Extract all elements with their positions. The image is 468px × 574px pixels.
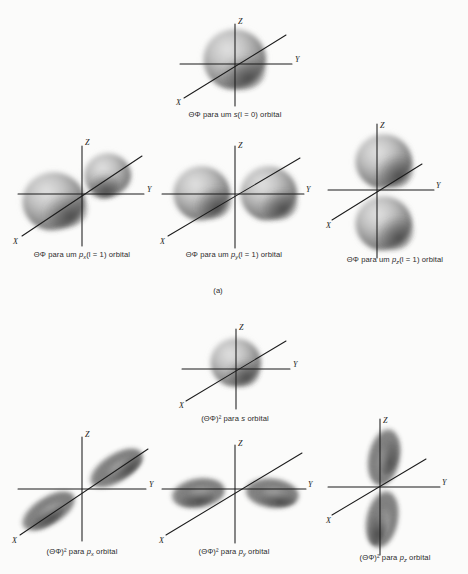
s-orbital-diagram: Z Y X: [160, 14, 310, 114]
cell-a-px-orbital: Z Y X ΘΦ para um px(l = 1) orbital: [4, 128, 160, 268]
caption-suffix: orbital: [245, 414, 269, 423]
pz-orbital-diagram: Z Y X: [322, 122, 468, 260]
axis-label-x: X: [158, 536, 165, 545]
axis-label-z: Z: [85, 430, 90, 439]
cell-b-px-orbital: Z Y X (ΘΦ)² para px orbital: [4, 425, 160, 565]
cell-a-py-orbital: Z Y X ΘΦ para um py(l = 1) orbital: [154, 140, 314, 268]
axis-label-x: X: [11, 536, 18, 545]
caption-b-py: (ΘΦ)² para py orbital: [154, 547, 314, 557]
py-squared-diagram: Z Y X: [154, 437, 314, 549]
caption-a-px: ΘΦ para um px(l = 1) orbital: [4, 250, 160, 260]
s-squared-diagram: Z Y X: [160, 323, 310, 415]
caption-suffix: orbital: [246, 547, 270, 556]
px-orbital-diagram: Z Y X: [4, 128, 160, 252]
caption-prefix: ΘΦ para um: [34, 250, 79, 259]
axis-label-y: Y: [306, 185, 312, 194]
orbital-figure: Z Y X ΘΦ para um s(l = 0) orbital: [0, 0, 468, 574]
axis-label-x: X: [178, 401, 185, 410]
axis-label-z: Z: [238, 141, 243, 150]
orbital-cloud-pz: [353, 132, 415, 254]
axis-label-y: Y: [442, 478, 448, 487]
caption-prefix: (ΘΦ)² para: [360, 553, 400, 562]
axis-label-x: X: [12, 237, 19, 246]
orbital-cloud-pz-squared: [361, 426, 405, 551]
panel-a: Z Y X ΘΦ para um s(l = 0) orbital: [0, 0, 468, 305]
axis-cross-s-squared: [182, 329, 290, 409]
axis-label-y: Y: [436, 181, 442, 190]
caption-suffix: orbital: [407, 553, 431, 562]
panel-b: Z Y X (ΘΦ)² para s orbital: [0, 305, 468, 574]
caption-prefix: ΘΦ para um: [189, 110, 234, 119]
py-orbital-diagram: Z Y X: [154, 140, 314, 252]
caption-a-s: ΘΦ para um s(l = 0) orbital: [160, 110, 310, 119]
axis-label-x: X: [159, 237, 166, 246]
orbital-cloud-px: [20, 151, 134, 234]
axis-label-y: Y: [147, 185, 153, 194]
axis-label-x: X: [325, 221, 332, 230]
caption-suffix: (l = 1) orbital: [238, 250, 282, 259]
caption-suffix: (l = 0) orbital: [238, 110, 282, 119]
pz-squared-diagram: Z Y X: [322, 417, 468, 557]
axis-label-z: Z: [238, 439, 243, 448]
axis-label-x: X: [325, 516, 332, 525]
axis-label-z: Z: [383, 416, 388, 425]
caption-b-px: (ΘΦ)² para px orbital: [4, 547, 160, 557]
cell-b-s-orbital: Z Y X (ΘΦ)² para s orbital: [160, 323, 310, 429]
caption-suffix: (l = 1) orbital: [399, 255, 443, 264]
panel-a-label: (a): [198, 286, 238, 295]
caption-b-s: (ΘΦ)² para s orbital: [160, 414, 310, 423]
cell-a-pz-orbital: Z Y X ΘΦ para um pz(l = 1) orbital: [322, 122, 468, 274]
cell-a-s-orbital: Z Y X ΘΦ para um s(l = 0) orbital: [160, 14, 310, 126]
axis-label-y: Y: [293, 360, 299, 369]
caption-suffix: orbital: [94, 547, 118, 556]
caption-prefix: (ΘΦ)² para: [47, 547, 87, 556]
caption-b-pz: (ΘΦ)² para pz orbital: [322, 553, 468, 563]
axis-label-y: Y: [308, 480, 314, 489]
axis-label-z: Z: [380, 121, 385, 130]
caption-prefix: (ΘΦ)² para: [201, 414, 241, 423]
cell-b-pz-orbital: Z Y X (ΘΦ)² para pz orbital: [322, 417, 468, 574]
caption-prefix: ΘΦ para um: [186, 250, 231, 259]
axis-label-y: Y: [295, 55, 301, 64]
px-squared-diagram: Z Y X: [4, 425, 160, 549]
axis-label-z: Z: [238, 17, 243, 26]
caption-suffix: (l = 1) orbital: [86, 250, 130, 259]
caption-a-pz: ΘΦ para um pz(l = 1) orbital: [322, 255, 468, 265]
cell-b-py-orbital: Z Y X (ΘΦ)² para py orbital: [154, 437, 314, 565]
caption-prefix: (ΘΦ)² para: [199, 547, 239, 556]
axis-label-z: Z: [85, 138, 90, 147]
caption-a-py: ΘΦ para um py(l = 1) orbital: [154, 250, 314, 260]
caption-prefix: ΘΦ para um: [347, 255, 392, 264]
axis-label-x: X: [175, 98, 182, 107]
axis-label-z: Z: [239, 323, 244, 332]
